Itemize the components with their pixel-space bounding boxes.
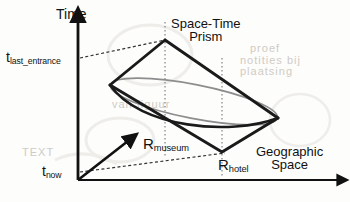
- r-museum-base: R: [143, 135, 154, 152]
- t-last-entrance-subscript: last_entrance: [10, 56, 61, 66]
- t-now-subscript: now: [46, 170, 62, 180]
- r-hotel-base: R: [218, 156, 229, 173]
- geographic-space-label-line2: Space: [256, 158, 323, 171]
- geographic-space-label: Geographic Space: [256, 145, 323, 172]
- space-time-prism-figure: proef notities bij plaatsing van figuur …: [0, 0, 350, 202]
- r-museum-label: Rmuseum: [143, 136, 189, 151]
- space-time-prism-label: Space-Time Prism: [171, 17, 241, 44]
- space-time-prism-label-line2: Prism: [171, 30, 241, 43]
- time-axis-label: Time: [56, 7, 87, 21]
- t-now-label: tnow: [42, 164, 62, 178]
- r-museum-subscript: museum: [154, 143, 189, 153]
- t-last-entrance-label: tlast_entrance: [6, 50, 61, 64]
- r-hotel-subscript: hotel: [229, 164, 249, 174]
- r-hotel-label: Rhotel: [218, 157, 249, 172]
